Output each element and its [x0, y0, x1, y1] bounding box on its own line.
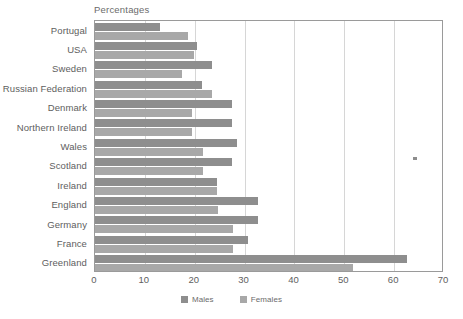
bar-chart: Percentages PortugalUSASwedenRussian Fed…	[0, 0, 463, 319]
bars-layer	[95, 21, 442, 271]
bar-denmark-males	[95, 100, 232, 108]
bar-ireland-females	[95, 187, 217, 195]
x-tick-10: 10	[139, 274, 150, 285]
chart-legend: MalesFemales	[0, 295, 463, 304]
x-tick-60: 60	[388, 274, 399, 285]
bar-wales-males	[95, 139, 237, 147]
bar-germany-males	[95, 216, 258, 224]
stray-mark-icon	[413, 157, 417, 160]
category-label-france: France	[57, 237, 87, 248]
x-axis-tick-labels: 010203040506070	[0, 274, 463, 290]
category-label-portugal: Portugal	[51, 24, 87, 35]
legend-label-males: Males	[192, 295, 214, 304]
bar-sweden-females	[95, 70, 182, 78]
category-label-greenland: Greenland	[42, 257, 87, 268]
bar-northern-ireland-females	[95, 128, 192, 136]
legend-item-females[interactable]: Females	[240, 295, 282, 304]
bar-scotland-females	[95, 167, 203, 175]
bar-scotland-males	[95, 158, 232, 166]
category-label-usa: USA	[67, 44, 87, 55]
x-tick-50: 50	[338, 274, 349, 285]
category-axis-labels: PortugalUSASwedenRussian FederationDenma…	[0, 20, 90, 272]
bar-wales-females	[95, 148, 203, 156]
bar-germany-females	[95, 225, 233, 233]
bar-russian-federation-males	[95, 81, 202, 89]
category-label-ireland: Ireland	[57, 179, 87, 190]
legend-swatch-males-icon	[181, 296, 188, 303]
bar-russian-federation-females	[95, 90, 212, 98]
category-label-scotland: Scotland	[49, 160, 87, 171]
bar-denmark-females	[95, 109, 192, 117]
x-tick-30: 30	[238, 274, 249, 285]
chart-title: Percentages	[94, 4, 150, 15]
x-tick-70: 70	[438, 274, 449, 285]
category-label-england: England	[51, 199, 87, 210]
legend-swatch-females-icon	[240, 296, 247, 303]
category-label-sweden: Sweden	[52, 63, 87, 74]
bar-france-females	[95, 245, 233, 253]
bar-usa-males	[95, 42, 197, 50]
bar-northern-ireland-males	[95, 119, 232, 127]
bar-portugal-females	[95, 32, 188, 40]
legend-item-males[interactable]: Males	[181, 295, 214, 304]
bar-england-males	[95, 197, 258, 205]
x-tick-20: 20	[188, 274, 199, 285]
bar-portugal-males	[95, 23, 160, 31]
category-label-germany: Germany	[47, 218, 87, 229]
bar-ireland-males	[95, 178, 217, 186]
category-label-wales: Wales	[60, 141, 87, 152]
x-tick-40: 40	[288, 274, 299, 285]
plot-area	[94, 20, 443, 272]
bar-usa-females	[95, 51, 194, 59]
bar-greenland-males	[95, 255, 407, 263]
bar-england-females	[95, 206, 218, 214]
category-label-russian-federation: Russian Federation	[3, 82, 87, 93]
bar-france-males	[95, 236, 248, 244]
bar-greenland-females	[95, 264, 353, 272]
bar-sweden-males	[95, 61, 212, 69]
legend-label-females: Females	[251, 295, 282, 304]
category-label-denmark: Denmark	[48, 102, 87, 113]
x-tick-0: 0	[91, 274, 96, 285]
category-label-northern-ireland: Northern Ireland	[17, 121, 87, 132]
